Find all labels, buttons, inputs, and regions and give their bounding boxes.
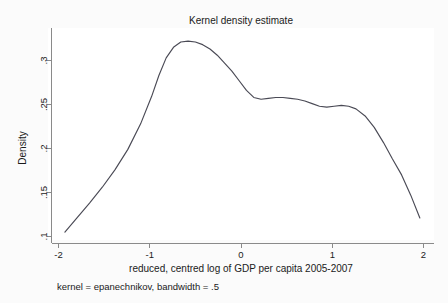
x-tick-label-4: 2	[421, 249, 426, 260]
kernel-note: kernel = epanechnikov, bandwidth = .5	[57, 281, 219, 292]
chart-title: Kernel density estimate	[189, 15, 293, 26]
plot-area-background	[48, 28, 434, 240]
y-tick-label-3: .15	[38, 186, 49, 199]
x-tick-label-1: -1	[146, 249, 154, 260]
kernel-density-chart: Kernel density estimate .3 .25 .2 .15 .1…	[0, 0, 448, 303]
x-tick-label-0: -2	[54, 249, 62, 260]
x-tick-label-2: 0	[238, 249, 243, 260]
y-tick-label-4: .1	[38, 233, 49, 241]
x-tick-label-3: 1	[330, 249, 335, 260]
kernel-density-figure: Kernel density estimate .3 .25 .2 .15 .1…	[0, 0, 448, 303]
y-axis-title: Density	[17, 131, 28, 164]
y-tick-label-1: .25	[38, 98, 49, 111]
y-tick-label-0: .3	[38, 57, 49, 65]
y-tick-label-2: .2	[38, 145, 49, 153]
x-axis-title: reduced, centred log of GDP per capita 2…	[129, 263, 353, 274]
